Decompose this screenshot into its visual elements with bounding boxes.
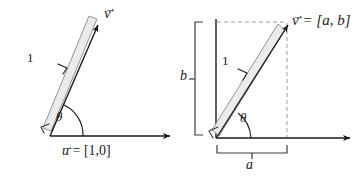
unit-length-label-right: 1 [222, 54, 229, 67]
unit-length-label-left: 1 [27, 51, 34, 64]
vector-v-components: = [a, b] [302, 12, 350, 28]
unit-length-ruler-left [41, 16, 97, 133]
vector-v-label-right: →v = [a, b] [292, 13, 350, 28]
vector-arrow-accent-right: → [293, 9, 305, 21]
vector-diagram-figure: →v 1 θ →u = [1,0] →v = [a, b] 1 θ b a [0, 0, 362, 179]
vector-v-label-left: →v [104, 6, 111, 21]
unit-length-ruler-right [209, 24, 285, 138]
angle-theta-label-left: θ [56, 110, 62, 123]
angle-arc-left [64, 105, 83, 136]
component-b-label: b [180, 69, 187, 83]
vector-v-right [217, 25, 288, 137]
component-b-bracket [189, 22, 203, 135]
vector-arrow-accent-u: → [63, 141, 74, 152]
vector-arrow-accent-left: → [105, 2, 117, 14]
vector-u-value: = [1,0] [73, 143, 111, 158]
angle-theta-label-right: θ [240, 111, 246, 124]
vector-u-label-left: →u = [1,0] [62, 144, 111, 158]
right-panel-group [189, 19, 350, 159]
component-a-label: a [246, 158, 253, 172]
